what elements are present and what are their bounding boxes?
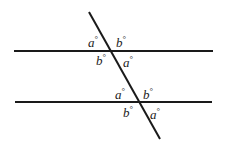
angle-label-bottom-lower-right: a° [150,108,160,121]
angle-label-top-lower-left: b° [96,54,106,67]
angle-var: b [116,35,123,50]
angle-label-top-upper-left: a° [88,36,98,49]
degree-symbol: ° [123,34,127,44]
angle-var: a [115,87,122,102]
degree-symbol: ° [122,86,126,96]
degree-symbol: ° [130,54,134,64]
angle-label-bottom-lower-left: b° [123,106,133,119]
angle-var: a [150,107,157,122]
degree-symbol: ° [103,52,107,62]
angle-label-bottom-upper-left: a° [115,88,125,101]
lines-svg [0,0,226,148]
degree-symbol: ° [95,34,99,44]
angle-label-top-lower-right: a° [123,56,133,69]
degree-symbol: ° [130,104,134,114]
angle-var: a [88,35,95,50]
angle-var: b [143,87,150,102]
angle-var: b [96,53,103,68]
angle-label-bottom-upper-right: b° [143,88,153,101]
degree-symbol: ° [157,106,161,116]
angle-var: b [123,105,130,120]
degree-symbol: ° [150,86,154,96]
diagram-canvas: a° b° b° a° a° b° b° a° [0,0,226,148]
angle-label-top-upper-right: b° [116,36,126,49]
angle-var: a [123,55,130,70]
